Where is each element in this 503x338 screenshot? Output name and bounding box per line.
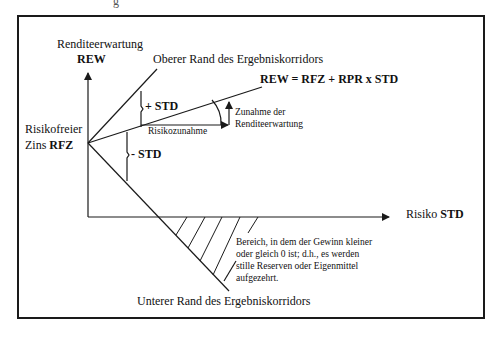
return-increase-label-2: Renditeerwartung <box>235 119 303 130</box>
lower-edge-label: Unterer Rand des Ergebniskorridors <box>137 295 310 309</box>
return-increase-label-1: Zunahme der <box>235 107 285 118</box>
plus-std-label: + STD <box>145 100 178 114</box>
risk-increase-label: Risikozunahme <box>148 126 207 137</box>
origin-label-line2: Zins RFZ <box>25 139 73 153</box>
hatched-note-line2: oder gleich 0 ist; d.h., es werden <box>236 249 359 260</box>
x-axis-label: Risiko STD <box>406 208 464 222</box>
hatched-note-line1: Bereich, in dem der Gewinn kleiner <box>236 237 372 248</box>
formula-label: REW = RFZ + RPR x STD <box>260 73 398 87</box>
slope-angle-arc <box>212 100 221 125</box>
y-axis-label: Renditeerwartung <box>57 38 143 52</box>
hatched-note-line4: aufgezehrt. <box>236 273 278 284</box>
upper-edge-label: Oberer Rand des Ergebniskorridors <box>153 53 323 67</box>
origin-label-line1: Risikofreier <box>25 123 82 137</box>
minus-std-label: - STD <box>131 148 161 162</box>
minus-std-bracket <box>127 132 129 181</box>
y-axis-symbol: REW <box>77 53 106 67</box>
note-pointer <box>224 261 236 281</box>
hatched-note-line3: stille Reserven oder Eigenmittel <box>236 261 358 272</box>
plus-std-bracket <box>141 91 143 127</box>
